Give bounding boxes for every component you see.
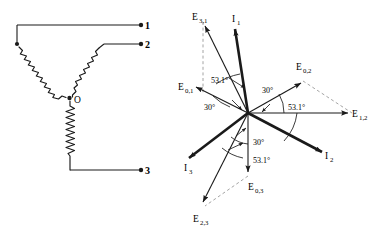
terminal-label-1: 1 xyxy=(145,20,150,31)
label-E02-base: E xyxy=(296,62,302,72)
angle-label-30-upper-right: 30° xyxy=(262,86,273,95)
terminal-dot-2 xyxy=(139,42,143,46)
leader-30-upper-left xyxy=(232,100,242,110)
label-E01-sub: 0,1 xyxy=(185,87,194,94)
label-E02: E 0,2 xyxy=(296,62,312,74)
label-I1-base: I xyxy=(232,14,235,24)
branch-1 xyxy=(15,25,140,99)
label-E31-base: E xyxy=(192,12,198,22)
label-I3-sub: 3 xyxy=(189,168,193,175)
terminal-dot-1 xyxy=(139,23,143,27)
arc-531-lower xyxy=(222,148,243,158)
label-I3-base: I xyxy=(184,163,187,173)
label-I1: I 1 xyxy=(232,14,240,26)
coil-3 xyxy=(66,101,75,170)
junction-dot-1 xyxy=(15,42,19,46)
leader-531-lower xyxy=(228,143,243,150)
label-I2-base: I xyxy=(325,151,328,161)
neutral-node-label: O xyxy=(74,95,81,105)
angle-label-30-upper-left: 30° xyxy=(204,103,215,112)
figure-canvas: O 1 2 3 xyxy=(0,0,389,231)
neutral-node-dot xyxy=(67,96,71,100)
label-I1-sub: 1 xyxy=(237,19,240,26)
label-E02-sub: 0,2 xyxy=(303,67,312,74)
wye-connection-schematic: O 1 2 3 xyxy=(15,20,150,176)
lead-bend-2 xyxy=(99,44,104,48)
coil-2 xyxy=(73,48,100,97)
dash-E02-to-E12 xyxy=(303,81,352,113)
label-I3: I 3 xyxy=(184,163,193,175)
label-E23-base: E xyxy=(193,214,199,224)
label-E31-sub: 3,1 xyxy=(199,17,208,24)
leader-30-upper-right xyxy=(262,104,270,112)
label-E01-base: E xyxy=(178,82,184,92)
branch-3 xyxy=(66,101,140,170)
label-E23-sub: 2,3 xyxy=(200,219,209,226)
label-E23: E 2,3 xyxy=(193,214,209,226)
label-E12-sub: 1,2 xyxy=(359,114,368,121)
phasor-diagram: 30° 53.1° 30° 53.1° 30° 53.1° E 3,1 I 1 … xyxy=(178,12,368,226)
angle-label-30-lower: 30° xyxy=(253,138,264,147)
diagram-svg: O 1 2 3 xyxy=(0,0,389,231)
dash-E03-to-E23 xyxy=(205,176,248,206)
label-E31: E 3,1 xyxy=(192,12,208,24)
branch-2 xyxy=(73,44,141,97)
vector-I3 xyxy=(189,113,248,158)
angle-label-531-upper-left: 53.1° xyxy=(211,76,228,85)
arc-30-upper-right xyxy=(279,94,284,113)
label-E03: E 0,3 xyxy=(248,182,264,194)
label-E12-base: E xyxy=(352,109,358,119)
terminal-label-2: 2 xyxy=(145,39,150,50)
terminal-dot-3 xyxy=(139,168,143,172)
label-I2-sub: 2 xyxy=(330,156,334,163)
label-E01: E 0,1 xyxy=(178,82,194,94)
label-E03-base: E xyxy=(248,182,254,192)
terminal-label-3: 3 xyxy=(145,165,150,176)
angle-label-531-lower: 53.1° xyxy=(253,156,270,165)
label-E03-sub: 0,3 xyxy=(255,187,264,194)
angle-label-531-right: 53.1° xyxy=(288,103,305,112)
label-I2: I 2 xyxy=(325,151,334,163)
coil-1 xyxy=(19,47,66,99)
arc-30-upper-left xyxy=(213,96,230,107)
label-E12: E 1,2 xyxy=(352,109,368,121)
leader-30-lower xyxy=(236,128,246,136)
